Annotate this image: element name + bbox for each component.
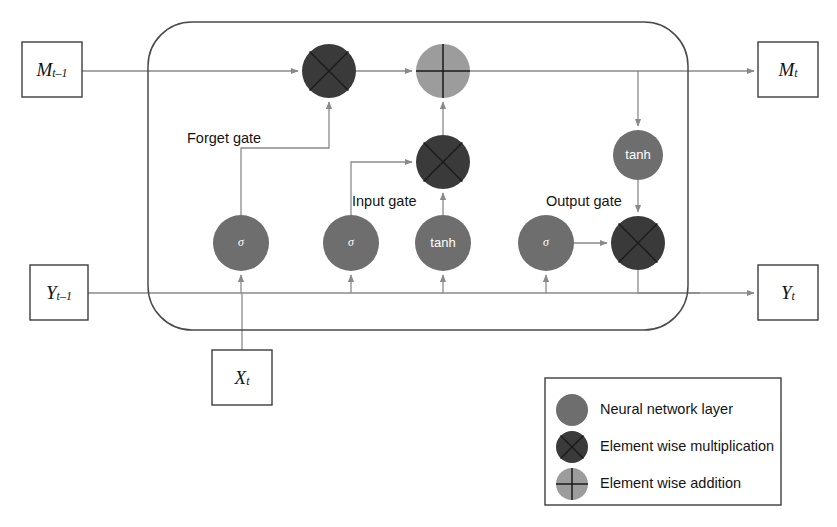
input-box (212, 350, 272, 405)
lstm-diagram-figure: Mt–1MtYt–1YtXttanhσσtanhσForget gateInpu… (0, 0, 837, 527)
wire-forget-gate (241, 102, 329, 215)
output-multiply-node (611, 216, 665, 270)
gate-label-output: Output gate (546, 193, 622, 209)
gate-label-forget: Forget gate (187, 130, 261, 146)
memory-out-box (758, 42, 818, 97)
forget-sigmoid-node (213, 215, 269, 271)
output-tanh-node (613, 130, 663, 180)
input-multiply-node (416, 135, 470, 189)
gate-label-input: Input gate (352, 193, 417, 209)
output-out-box (758, 265, 818, 320)
memory-in-box (22, 42, 82, 97)
wire-layer (82, 71, 754, 350)
output-sigmoid-node (518, 215, 574, 271)
legend-swatch-mul (556, 431, 588, 463)
legend-swatch-add (556, 468, 588, 500)
wire-hidden-out (638, 270, 754, 293)
state-add-node (416, 44, 470, 98)
legend-swatch-neural (556, 394, 588, 426)
input-sigmoid-node (323, 215, 379, 271)
legend-label-mul: Element wise multiplication (600, 438, 774, 454)
forget-multiply-node (302, 44, 356, 98)
legend-label-add: Element wise addition (600, 475, 741, 491)
output-in-box (30, 265, 88, 320)
io-box-layer (22, 42, 818, 405)
node-layer (213, 44, 665, 271)
legend-label-neural: Neural network layer (600, 401, 733, 417)
candidate-tanh-node (415, 215, 471, 271)
